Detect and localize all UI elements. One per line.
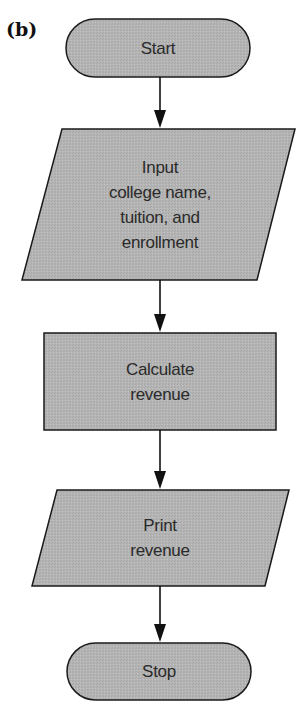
calculate-text-line-2: revenue	[130, 382, 189, 407]
stop-node-label: Stop	[67, 643, 251, 700]
input-text-line-3: tuition, and	[120, 205, 200, 230]
input-node-label: Input college name, tuition, and enrollm…	[40, 129, 280, 280]
print-text-line-2: revenue	[130, 538, 189, 563]
arrow-start-to-input	[154, 77, 166, 128]
print-text-line-1: Print	[143, 513, 176, 538]
arrow-calculate-to-print	[154, 430, 166, 489]
input-text-line-4: enrollment	[122, 230, 198, 255]
input-text-line-1: Input	[142, 155, 178, 180]
input-text-line-2: college name,	[109, 180, 211, 205]
start-node-label: Start	[66, 19, 250, 77]
arrow-print-to-stop	[154, 586, 166, 642]
arrow-input-to-calculate	[154, 280, 166, 332]
calculate-text-line-1: Calculate	[126, 357, 194, 382]
print-node-label: Print revenue	[44, 490, 276, 586]
calculate-node-label: Calculate revenue	[44, 333, 276, 430]
stop-text: Stop	[142, 659, 176, 684]
panel-label: (b)	[6, 18, 37, 40]
start-text: Start	[141, 36, 175, 61]
